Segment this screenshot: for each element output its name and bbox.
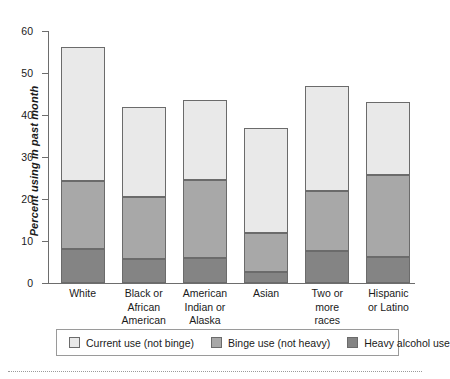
x-tick-label: Hispanic or Latino [358,287,419,314]
legend-item-label: Current use (not binge) [86,337,194,349]
bar-segment-binge-use [61,181,105,249]
bar-group [183,31,227,283]
bar-group [366,31,410,283]
y-tick-30: 30 [42,157,48,158]
x-tick-label: White [52,287,113,301]
legend-item: Heavy alcohol use [347,337,450,349]
bar-segment-binge-use [366,175,410,257]
y-tick-label-10: 10 [21,235,33,247]
legend-swatch-icon [69,337,80,348]
bar-group [122,31,166,283]
bar-segment-heavy-use [61,249,105,283]
legend-item-label: Heavy alcohol use [364,337,450,349]
bar-segment-current-use [305,86,349,191]
legend-swatch-icon [347,337,358,348]
page-divider [8,371,422,372]
y-tick-40: 40 [42,115,48,116]
y-tick-0: 0 [42,283,48,284]
x-tick-label: Black or African American [113,287,174,328]
y-tick-label-40: 40 [21,109,33,121]
legend-item: Binge use (not heavy) [211,337,330,349]
plot-area: 0102030405060WhiteBlack or African Ameri… [48,31,415,283]
chart-legend: Current use (not binge)Binge use (not he… [56,329,399,356]
x-tick-label: Two or more races [297,287,358,328]
x-tick-label: Asian [236,287,297,301]
bar-segment-current-use [183,100,227,180]
bar-segment-heavy-use [366,257,410,283]
bar-segment-current-use [244,128,288,233]
bar-segment-binge-use [244,233,288,272]
y-tick-10: 10 [42,241,48,242]
bar-segment-binge-use [122,197,166,259]
bar-group [244,31,288,283]
bar-segment-current-use [366,102,410,175]
y-tick-label-0: 0 [27,277,33,289]
bar-segment-heavy-use [305,251,349,283]
y-tick-20: 20 [42,199,48,200]
legend-swatch-icon [211,337,222,348]
x-axis-line [48,283,415,284]
bar-segment-current-use [61,47,105,181]
y-tick-60: 60 [42,31,48,32]
bar-segment-current-use [122,107,166,197]
bar-segment-binge-use [183,180,227,258]
y-tick-50: 50 [42,73,48,74]
y-axis-line [48,31,49,284]
bar-segment-heavy-use [244,272,288,283]
legend-item-label: Binge use (not heavy) [228,337,330,349]
bar-segment-heavy-use [122,259,166,283]
bar-group [305,31,349,283]
bar-segment-heavy-use [183,258,227,283]
legend-item: Current use (not binge) [69,337,194,349]
y-tick-label-30: 30 [21,151,33,163]
y-tick-label-50: 50 [21,67,33,79]
y-tick-label-20: 20 [21,193,33,205]
bar-group [61,31,105,283]
bar-segment-binge-use [305,191,349,251]
y-tick-label-60: 60 [21,25,33,37]
